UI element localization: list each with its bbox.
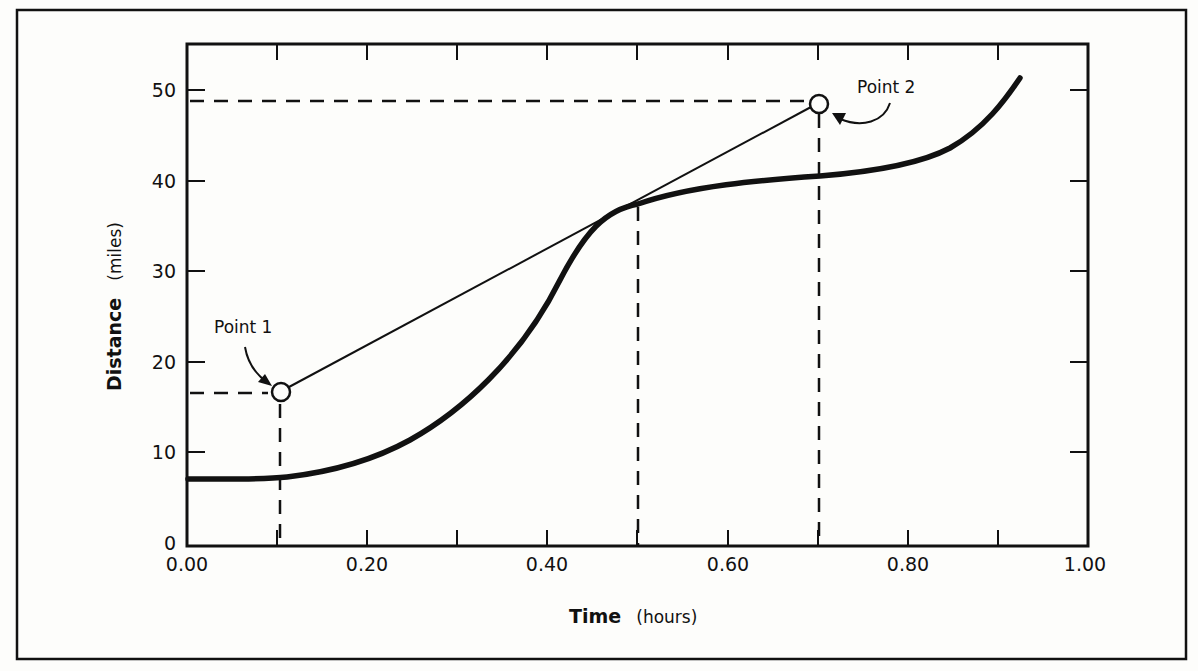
x-axis-title: Time (hours) (569, 605, 697, 627)
y-tick-label: 40 (152, 170, 176, 192)
y-axis-title-text: Distance (103, 298, 125, 391)
distance-curve (188, 78, 1020, 479)
x-tick-label: 0.00 (166, 553, 208, 575)
secant-line (289, 107, 811, 387)
x-tick-labels: 0.00 0.20 0.40 0.60 0.80 1.00 (166, 553, 1106, 575)
x-axis-unit: (hours) (636, 607, 697, 627)
y-tick-label: 50 (152, 79, 176, 101)
y-tick-label: 20 (152, 351, 176, 373)
y-axis-title: Distance (miles) (103, 222, 125, 391)
point2-marker (810, 95, 828, 113)
x-ticks (277, 44, 998, 546)
point2-arrow-icon (832, 103, 890, 125)
point2-label: Point 2 (857, 77, 915, 97)
x-tick-label: 0.20 (346, 553, 388, 575)
y-tick-label: 0 (164, 532, 176, 554)
x-tick-label: 0.60 (707, 553, 749, 575)
x-axis-title-text: Time (569, 605, 621, 627)
x-tick-label: 1.00 (1064, 553, 1106, 575)
y-tick-label: 30 (152, 260, 176, 282)
x-tick-label: 0.80 (887, 553, 929, 575)
y-tick-labels: 0 10 20 30 40 50 (152, 79, 176, 554)
point1-marker (272, 383, 290, 401)
x-tick-label: 0.40 (526, 553, 568, 575)
point1-label: Point 1 (214, 317, 272, 337)
y-axis-unit: (miles) (105, 222, 125, 281)
y-tick-label: 10 (152, 441, 176, 463)
distance-time-chart: 0 10 20 30 40 50 0.00 0.20 0.40 0.60 0.8… (0, 0, 1198, 671)
point1-arrow-icon (245, 347, 272, 386)
